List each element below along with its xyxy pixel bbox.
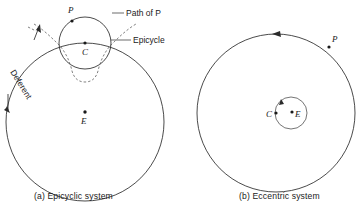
path-of-p-label: Path of P (126, 8, 161, 18)
point-p-marker-b (327, 45, 330, 48)
point-c-marker-a (83, 41, 86, 44)
eccentric-arrowhead (272, 31, 281, 37)
point-e-marker-b (290, 110, 293, 113)
panel-a-caption: (a) Epicyclic system (34, 191, 113, 201)
point-c-label-b: C (266, 109, 273, 119)
epicycle-label: Epicycle (133, 35, 165, 45)
point-c-marker-b (274, 111, 277, 114)
panel-b-caption: (b) Eccentric system (239, 191, 320, 201)
point-c-label-a: C (82, 47, 89, 57)
panel-a-epicyclic: Path of P Epicycle Deferent P C E (a) Ep… (4, 5, 165, 201)
point-e-marker-a (83, 110, 86, 113)
deferent-label: Deferent (8, 68, 34, 101)
point-e-label-b: E (294, 109, 301, 119)
point-p-label-a: P (67, 5, 74, 15)
point-p-marker-a (70, 19, 73, 22)
figure-container: Path of P Epicycle Deferent P C E (a) Ep… (0, 0, 362, 209)
astronomy-diagram: Path of P Epicycle Deferent P C E (a) Ep… (0, 0, 362, 209)
deferent-arrow-tail-top (34, 27, 39, 40)
point-e-label-a: E (80, 116, 87, 126)
point-p-label-b: P (331, 34, 338, 44)
path-of-p-entry-mark (28, 27, 36, 31)
panel-b-eccentric: P C E (b) Eccentric system (197, 31, 355, 201)
deferent-label-group: Deferent (8, 68, 34, 101)
